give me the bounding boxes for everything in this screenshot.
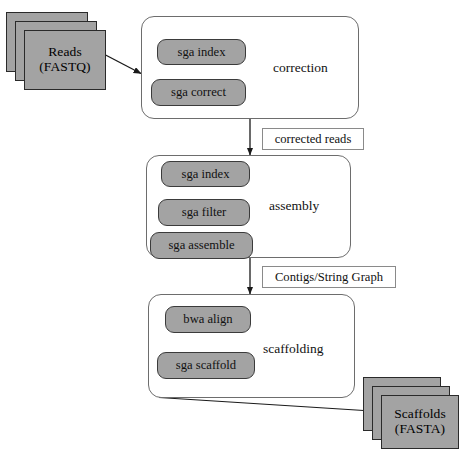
edge-label-text: corrected reads: [275, 132, 352, 147]
step-correction-sga-index[interactable]: sga index: [157, 39, 246, 65]
edge-label-text: Contigs/String Graph: [275, 270, 383, 285]
edge-label-corrected-reads: corrected reads: [262, 128, 364, 150]
step-scaffolding-bwa-align[interactable]: bwa align: [165, 306, 251, 333]
stage-correction-title: correction: [273, 60, 328, 76]
step-label: bwa align: [183, 312, 232, 327]
step-assembly-sga-index[interactable]: sga index: [161, 161, 250, 187]
scaffolds-node: Scaffolds (FASTA): [363, 377, 461, 450]
step-assembly-sga-filter[interactable]: sga filter: [158, 199, 250, 226]
edge-label-contigs-string-graph: Contigs/String Graph: [262, 266, 396, 288]
stage-scaffolding-title: scaffolding: [263, 341, 324, 357]
reads-label-line1: Reads: [48, 45, 82, 60]
step-label: sga filter: [182, 205, 226, 220]
step-label: sga assemble: [168, 238, 234, 253]
reads-node: Reads (FASTQ): [6, 12, 112, 94]
diagram-canvas: Reads (FASTQ) correction sga index sga c…: [0, 0, 461, 450]
stage-assembly-title: assembly: [269, 198, 319, 214]
scaffolds-label: Scaffolds (FASTA): [381, 395, 459, 449]
step-label: sga scaffold: [176, 358, 236, 373]
scaffolds-label-line1: Scaffolds: [394, 407, 446, 422]
step-label: sga index: [182, 167, 230, 182]
step-correction-sga-correct[interactable]: sga correct: [151, 79, 246, 106]
step-assembly-sga-assemble[interactable]: sga assemble: [150, 232, 253, 259]
step-scaffolding-sga-scaffold[interactable]: sga scaffold: [157, 352, 255, 379]
reads-label: Reads (FASTQ): [24, 30, 106, 90]
step-label: sga index: [178, 45, 226, 60]
reads-label-line2: (FASTQ): [39, 60, 90, 75]
scaffolds-label-line2: (FASTA): [395, 422, 445, 437]
step-label: sga correct: [171, 85, 226, 100]
